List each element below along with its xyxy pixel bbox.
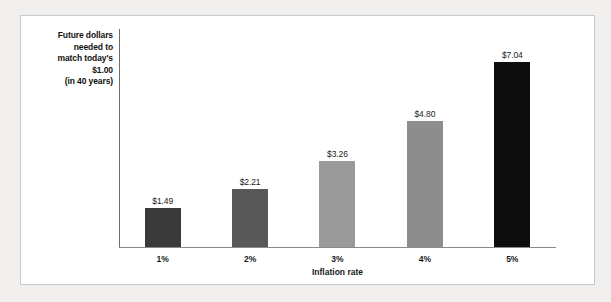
plot-area: Future dollars needed to match today's $… xyxy=(119,29,556,248)
x-tick-label: 1% xyxy=(157,254,169,264)
x-tick-label: 2% xyxy=(244,254,256,264)
bar-value-label: $3.26 xyxy=(327,149,348,159)
y-axis-label: Future dollars needed to match today's $… xyxy=(23,30,113,88)
x-tick-label: 4% xyxy=(419,254,431,264)
bar-value-label: $7.04 xyxy=(502,50,523,60)
bar-value-label: $4.80 xyxy=(414,109,435,119)
bar: $2.21 xyxy=(232,189,268,247)
x-tick-label: 5% xyxy=(506,254,518,264)
bar-slot: $3.26 3% xyxy=(294,29,381,247)
x-axis-line xyxy=(119,247,556,248)
bar-slot: $4.80 4% xyxy=(381,29,468,247)
y-axis-label-line-3: match today's xyxy=(23,53,113,65)
bar-value-label: $1.49 xyxy=(152,196,173,206)
bar-slot: $7.04 5% xyxy=(469,29,556,247)
bar: $3.26 xyxy=(319,161,355,247)
y-axis-label-line-5: (in 40 years) xyxy=(23,76,113,88)
bar-value-label: $2.21 xyxy=(240,177,261,187)
bar-slot: $1.49 1% xyxy=(119,29,206,247)
x-tick-label: 3% xyxy=(331,254,343,264)
y-axis-label-line-2: needed to xyxy=(23,42,113,54)
chart-card: Future dollars needed to match today's $… xyxy=(20,15,595,285)
x-axis-label: Inflation rate xyxy=(119,267,556,277)
bar-slot: $2.21 2% xyxy=(206,29,293,247)
bar: $1.49 xyxy=(145,208,181,247)
bar: $7.04 xyxy=(494,62,530,247)
y-axis-label-line-1: Future dollars xyxy=(23,30,113,42)
bar: $4.80 xyxy=(407,121,443,247)
y-axis-label-line-4: $1.00 xyxy=(23,65,113,77)
